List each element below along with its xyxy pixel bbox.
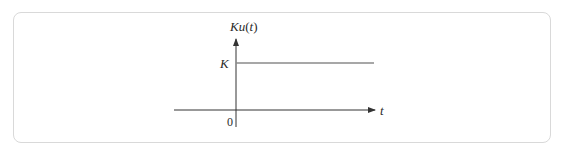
k-level-label: K — [219, 56, 230, 71]
y-label-close-paren: ) — [253, 19, 257, 34]
x-axis-label: t — [380, 103, 384, 118]
y-axis-label: Ku(t) — [229, 19, 257, 34]
step-function-diagram: Ku(t) K t 0 — [0, 0, 567, 151]
origin-label: 0 — [227, 115, 233, 129]
